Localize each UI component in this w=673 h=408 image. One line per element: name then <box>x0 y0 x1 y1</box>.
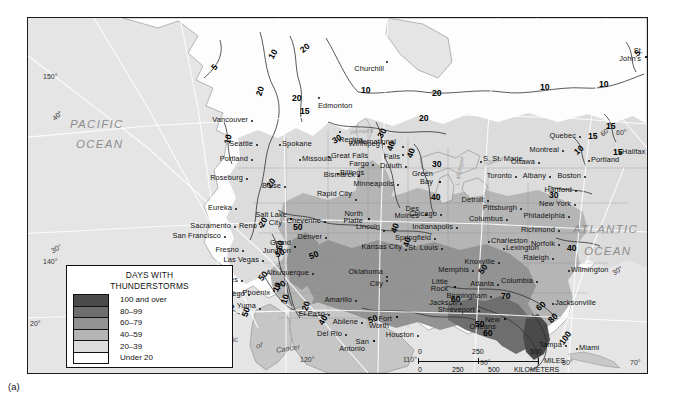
city-label: Phoenix <box>243 289 270 297</box>
city-label: Fargo <box>349 160 369 168</box>
grat-label-lon-70: 70° <box>630 359 641 366</box>
city-label: Columbus <box>469 215 503 223</box>
city-label: Kansas City <box>361 243 402 251</box>
city-label: Albany <box>523 172 546 180</box>
city-label: Boise <box>262 182 281 190</box>
legend-swatch <box>73 340 109 352</box>
contour-label: 10 <box>540 82 550 92</box>
city-label: Toronto <box>487 172 512 180</box>
scale-miles-bar: MILES <box>418 358 593 364</box>
city-label: Indianapolis <box>412 223 453 231</box>
scale-bars: 0 250 500 MILES 0 250 500 KILOMETERS <box>418 348 593 374</box>
legend-swatch <box>73 294 109 306</box>
city-label: Seattle <box>229 140 253 148</box>
ocean-label-pacific-line1: PACIFIC <box>70 118 124 130</box>
city-label: Lincoln <box>356 223 380 231</box>
legend-title: DAYS WITH THUNDERSTORMS <box>67 270 232 291</box>
city-label: New York <box>539 200 571 208</box>
ocean-label-pacific-line2: OCEAN <box>76 138 123 150</box>
city-label: Bismarck <box>324 171 355 179</box>
city-label: Springfield <box>395 234 431 242</box>
city-label: Portland <box>591 156 619 164</box>
city-label: Sacramento <box>190 222 231 230</box>
scale-km-tick-500: 500 <box>488 366 500 373</box>
city-label: Abilene <box>333 318 358 326</box>
city-label: Ottawa <box>511 158 535 166</box>
city-label: Roseburg <box>210 174 243 182</box>
legend-row: 80–99 <box>73 306 232 318</box>
city-label: Las Vegas <box>224 256 259 264</box>
contour-label: 40 <box>567 243 577 253</box>
scale-km-unit: KILOMETERS <box>514 366 559 373</box>
city-label: Lexington <box>506 244 539 252</box>
city-label: Duluth <box>380 162 402 170</box>
contour-label: 10 <box>361 85 371 95</box>
map-frame: PACIFIC OCEAN ATLANTIC OCEAN Winnipeg L.… <box>27 17 648 374</box>
contour-label: 15 <box>606 121 616 131</box>
city-label: Cheyenne <box>287 217 322 225</box>
city-label: Orleans <box>469 323 496 331</box>
contour-label: 10 <box>599 79 609 89</box>
legend-label: 20–39 <box>120 342 142 351</box>
contour-label: 15 <box>300 106 310 116</box>
city-label: El Paso <box>299 310 325 318</box>
contour-label: 20 <box>292 93 302 103</box>
city-label: Churchill <box>354 65 384 73</box>
city-label: Antonio <box>339 345 365 353</box>
legend-row: 60–79 <box>73 317 232 329</box>
city-label: Memphis <box>438 266 469 274</box>
scale-miles-unit: MILES <box>544 357 565 364</box>
city-label: Montreal <box>529 146 559 154</box>
contour-label: 15 <box>588 131 598 141</box>
city-label: Amarillo <box>325 296 353 304</box>
city-label: Falls <box>384 153 400 161</box>
city-label: Denver <box>298 233 322 241</box>
legend-swatch <box>73 352 109 364</box>
city-label: Rapid City <box>317 190 352 198</box>
city-label: Bay <box>420 178 433 186</box>
city-label: Shreveport <box>438 306 475 314</box>
legend-rows: 100 and over80–9960–7940–5920–39Under 20 <box>73 294 232 364</box>
city-label: Del Rio <box>317 330 342 338</box>
figure-caption: (a) <box>8 381 20 392</box>
city-label: Rock <box>431 285 448 293</box>
city-label: St. Louis <box>408 244 438 252</box>
city-label: Oklahoma <box>349 268 383 276</box>
city-label: Richmond <box>521 226 555 234</box>
city-label: Knoxville <box>465 258 495 266</box>
city-label: Columbia <box>501 277 533 285</box>
city-label: Chicago <box>409 210 437 218</box>
grat-label-lon-140: 140° <box>43 258 57 265</box>
legend-title-line2: THUNDERSTORMS <box>67 281 232 292</box>
scale-km-tick-250: 250 <box>452 366 464 373</box>
contour-label: 20 <box>432 88 442 98</box>
city-label: Wilmington <box>571 266 609 274</box>
scale-miles-tick-0: 0 <box>418 348 422 355</box>
legend-label: 60–79 <box>120 318 142 327</box>
city-label: City <box>269 219 282 227</box>
map-legend: DAYS WITH THUNDERSTORMS 100 and over80–9… <box>66 265 233 368</box>
city-label: Fresno <box>215 246 239 254</box>
city-label: Vancouver <box>212 116 248 124</box>
grat-label-lon-120: 120° <box>300 356 314 363</box>
city-label: Junction <box>263 247 291 255</box>
city-label: Pittsburgh <box>483 204 517 212</box>
scale-km-tick-0: 0 <box>418 366 422 373</box>
city-label: Albuquerque <box>266 269 309 277</box>
city-label: Atlanta <box>470 280 494 288</box>
legend-swatch <box>73 329 109 341</box>
legend-row: Under 20 <box>73 352 232 364</box>
thunderstorm-days-map-figure: PACIFIC OCEAN ATLANTIC OCEAN Winnipeg L.… <box>0 0 673 408</box>
scale-miles-tick-250: 250 <box>472 348 484 355</box>
city-label: Edmonton <box>318 102 353 110</box>
city-label: Houston <box>386 331 414 339</box>
city-label: John's <box>619 55 641 63</box>
city-label: Spokane <box>282 140 312 148</box>
city-label: Hartford <box>545 186 573 194</box>
legend-swatch <box>73 306 109 318</box>
grat-label-lon-150: 150° <box>43 73 57 80</box>
legend-row: 40–59 <box>73 329 232 341</box>
ocean-label-atlantic-line2: OCEAN <box>584 245 631 257</box>
city-label: Detroit <box>462 196 484 204</box>
legend-label: 80–99 <box>120 307 142 316</box>
